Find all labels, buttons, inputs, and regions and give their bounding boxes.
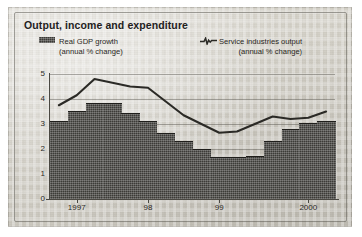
x-tick-label-98: 98: [144, 203, 153, 212]
chart-figure: Output, income and expenditure Real GDP …: [0, 0, 362, 237]
x-tick-label-99: 99: [215, 203, 224, 212]
legend-sublabel-real-gdp-growth: (annual % change): [59, 47, 123, 57]
chart-title: Output, income and expenditure: [24, 19, 188, 31]
y-tick-label-0: 0: [41, 195, 45, 203]
scanned-paper-background: Output, income and expenditure Real GDP …: [8, 7, 352, 227]
y-tick-label-3: 3: [41, 120, 45, 128]
y-tick-label-4: 4: [41, 95, 45, 103]
legend-label-service-industries-output: Service industries output: [219, 37, 302, 46]
x-tick-label-1997: 1997: [68, 203, 86, 212]
bar-swatch-icon: [39, 37, 55, 43]
plot-area: 012345 199798992000: [50, 74, 335, 199]
line-series-service-industries-output: [50, 74, 335, 199]
x-axis-line: [46, 199, 339, 200]
y-tick-label-5: 5: [41, 70, 45, 78]
legend-item-real-gdp-growth: Real GDP growth (annual % change): [39, 37, 123, 56]
legend-item-service-industries-output: Service industries output (annual % chan…: [200, 37, 302, 56]
legend-sublabel-service-industries-output: (annual % change): [200, 47, 302, 57]
y-tick-label-2: 2: [41, 145, 45, 153]
line-marker-icon: [200, 37, 217, 45]
y-tick-label-1: 1: [41, 170, 45, 178]
legend-label-real-gdp-growth: Real GDP growth: [59, 37, 118, 46]
x-tick-label-2000: 2000: [299, 203, 317, 212]
